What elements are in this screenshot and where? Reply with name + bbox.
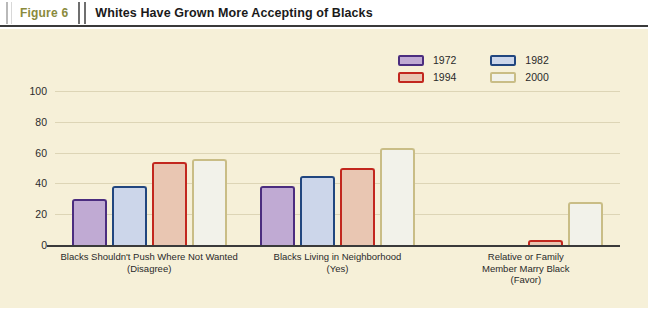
chart-legend: 1972 1982 1994 2000 [398, 54, 549, 83]
legend-item-1994: 1994 [398, 71, 456, 83]
bar-1982[interactable] [300, 176, 335, 245]
bar-group [55, 91, 243, 245]
legend-item-2000: 2000 [490, 71, 548, 83]
x-axis-label: Relative or FamilyMember Marry Black(Fav… [432, 251, 620, 286]
legend-label-2000: 2000 [525, 71, 548, 83]
plot-area: 020406080100 [55, 91, 620, 245]
bar-2000[interactable] [568, 202, 603, 245]
legend-swatch-2000 [490, 72, 516, 83]
x-axis-label-line: (Yes) [243, 263, 431, 275]
figure-container: Figure 6 Whites Have Grown More Acceptin… [0, 0, 648, 317]
figure-number: Figure 6 [20, 6, 68, 20]
x-axis-label-line: Relative or Family [432, 251, 620, 263]
y-axis-tick-label: 100 [29, 85, 47, 97]
figure-title: Whites Have Grown More Accepting of Blac… [95, 6, 372, 20]
header-left-rule-icon [6, 2, 12, 24]
x-axis-label-line: (Favor) [432, 274, 620, 286]
x-axis-label-line: (Disagree) [55, 263, 243, 275]
legend-label-1982: 1982 [525, 54, 548, 66]
x-axis-labels: Blacks Shouldn't Push Where Not Wanted(D… [55, 251, 620, 286]
legend-swatch-1972 [398, 55, 424, 66]
y-axis-tick-label: 40 [35, 177, 47, 189]
bar-1994[interactable] [340, 168, 375, 245]
legend-label-1994: 1994 [433, 71, 456, 83]
x-axis-label-line: Member Marry Black [432, 263, 620, 275]
legend-item-1982: 1982 [490, 54, 548, 66]
bar-1982[interactable] [112, 186, 147, 245]
legend-swatch-1982 [490, 55, 516, 66]
x-axis-label: Blacks Shouldn't Push Where Not Wanted(D… [55, 251, 243, 286]
x-axis-label-line: Blacks Living in Neighborhood [243, 251, 431, 263]
x-axis-line [47, 245, 620, 247]
bar-1994[interactable] [152, 162, 187, 245]
bar-group [432, 91, 620, 245]
bar-2000[interactable] [192, 159, 227, 245]
legend-item-1972: 1972 [398, 54, 456, 66]
bar-groups [55, 91, 620, 245]
x-axis-label-line: Blacks Shouldn't Push Where Not Wanted [55, 251, 243, 263]
y-axis-tick-label: 60 [35, 147, 47, 159]
bar-2000[interactable] [380, 148, 415, 245]
bar-1972[interactable] [260, 186, 295, 245]
x-axis-label: Blacks Living in Neighborhood(Yes) [243, 251, 431, 286]
legend-label-1972: 1972 [433, 54, 456, 66]
bar-1972[interactable] [72, 199, 107, 245]
y-axis-tick-label: 80 [35, 116, 47, 128]
y-axis-tick-label: 20 [35, 208, 47, 220]
header-underline [0, 25, 648, 27]
legend-swatch-1994 [398, 72, 424, 83]
header-divider-icon [78, 2, 86, 24]
bar-group [243, 91, 431, 245]
figure-header: Figure 6 Whites Have Grown More Acceptin… [0, 0, 648, 26]
